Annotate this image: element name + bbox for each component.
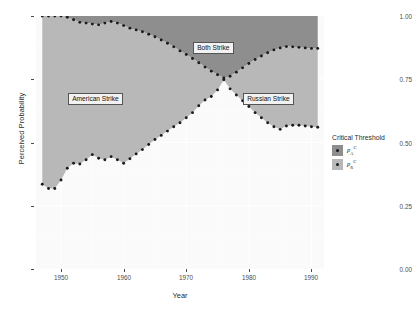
region-label-russian-strike: Russian Strike	[243, 93, 294, 105]
legend-label-1: pRC	[347, 159, 356, 170]
x-tick-mark-4	[311, 269, 312, 272]
x-tick-label-2: 1970	[169, 274, 203, 281]
y-tick-mark-4	[31, 16, 34, 17]
legend-title: Critical Threshold	[332, 134, 410, 141]
x-tick-mark-1	[124, 269, 125, 272]
x-tick-label-0: 1950	[44, 274, 78, 281]
x-tick-mark-3	[249, 269, 250, 272]
y-tick-mark-0	[31, 269, 34, 270]
legend-item-0[interactable]: pAC	[332, 145, 410, 156]
legend-swatch-0	[332, 145, 343, 156]
y-tick-mark-3	[31, 79, 34, 80]
plot-panel	[36, 16, 324, 269]
y-axis-title: Perceived Probability	[17, 54, 26, 204]
x-tick-mark-2	[186, 269, 187, 272]
y-tick-mark-1	[31, 206, 34, 207]
chart-figure: Perceived Probability 1.00 0.75 0.50 0.2…	[0, 0, 412, 309]
x-tick-label-1: 1960	[107, 274, 141, 281]
x-tick-label-3: 1980	[232, 274, 266, 281]
legend: Critical Threshold pAC pRC	[332, 134, 410, 173]
y-tick-label-3: 0.75	[386, 76, 412, 83]
y-tick-label-4: 1.00	[386, 13, 412, 20]
plot-svg	[36, 16, 324, 269]
x-tick-mark-0	[61, 269, 62, 272]
legend-item-1[interactable]: pRC	[332, 159, 410, 170]
y-tick-label-0: 0.00	[386, 266, 412, 273]
legend-dot-icon	[336, 163, 339, 166]
x-tick-label-4: 1990	[294, 274, 328, 281]
legend-dot-icon	[336, 149, 339, 152]
legend-label-0: pAC	[347, 145, 356, 156]
y-tick-label-1: 0.25	[386, 203, 412, 210]
x-axis-title: Year	[36, 291, 324, 300]
region-label-both-strike: Both Strike	[193, 42, 234, 54]
y-tick-mark-2	[31, 143, 34, 144]
region-label-american-strike: American Strike	[68, 93, 123, 105]
legend-swatch-1	[332, 159, 343, 170]
